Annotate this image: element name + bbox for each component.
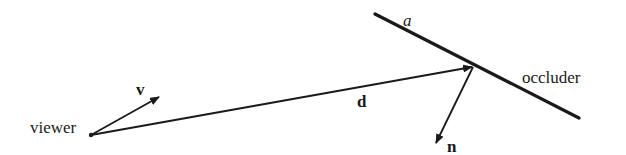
diagram-svg: viewer v d a occluder n [0, 0, 626, 155]
viewer-point [89, 133, 93, 137]
occluder-param-label: a [403, 11, 412, 30]
occluder-label: occluder [522, 68, 581, 87]
normal-vector-label: n [447, 137, 457, 155]
normal-vector-n-arrow [436, 67, 473, 143]
viewer-label: viewer [30, 118, 77, 137]
view-vector-label: v [136, 80, 145, 99]
diagram-canvas: viewer v d a occluder n [0, 0, 626, 155]
direction-vector-d-arrow [91, 67, 472, 135]
direction-vector-label: d [357, 92, 367, 111]
